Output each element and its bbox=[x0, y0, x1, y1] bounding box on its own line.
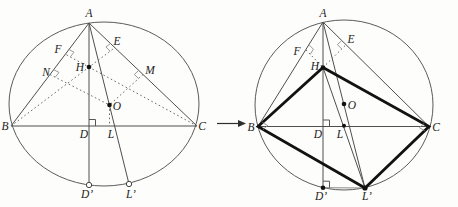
label-e-left: E bbox=[112, 35, 120, 47]
orthocenter-dot-h-left bbox=[87, 65, 92, 70]
left-figure: A B C D L D’ L’ H O E F N M bbox=[1, 7, 206, 200]
label-h-right: H bbox=[310, 60, 320, 72]
label-b-left: B bbox=[1, 120, 8, 132]
right-angle-mark-f-left bbox=[69, 49, 74, 57]
label-f-left: F bbox=[53, 43, 62, 55]
right-angle-mark-m-left bbox=[134, 70, 138, 78]
right-angle-mark-e-left bbox=[106, 43, 111, 51]
right-angle-mark-d-right bbox=[323, 120, 330, 127]
label-a-right: A bbox=[318, 7, 327, 19]
label-e-right: E bbox=[346, 33, 354, 45]
label-n-left: N bbox=[41, 66, 51, 78]
open-dot-lprime-left bbox=[126, 181, 131, 186]
orthocenter-dot-h-right bbox=[321, 65, 326, 70]
diagram-svg: A B C D L D’ L’ H O E F N M bbox=[0, 0, 458, 207]
label-c-left: C bbox=[198, 120, 206, 132]
open-dot-dprime-left bbox=[86, 182, 91, 187]
label-f-right: F bbox=[292, 45, 301, 57]
label-d-left: D bbox=[79, 128, 89, 140]
label-l-left: L bbox=[107, 128, 114, 140]
label-c-right: C bbox=[432, 121, 440, 133]
circumcenter-dot-o-right bbox=[342, 102, 347, 107]
right-angle-mark-f-right bbox=[309, 45, 313, 54]
label-m-left: M bbox=[144, 64, 156, 76]
dotted-he-right bbox=[323, 45, 346, 68]
side-ac-right bbox=[323, 22, 429, 127]
label-a-left: A bbox=[84, 7, 93, 19]
right-figure: A B C D L D’ L’ H O E F bbox=[247, 7, 440, 202]
right-angle-mark-n-left bbox=[54, 70, 59, 78]
label-dprime-left: D’ bbox=[80, 188, 93, 200]
transform-arrow bbox=[217, 120, 246, 127]
right-angle-mark-d-left bbox=[89, 120, 96, 127]
side-ab-right bbox=[258, 22, 323, 127]
label-d-right: D bbox=[313, 128, 323, 140]
label-dprime-right: D’ bbox=[314, 190, 327, 202]
label-l-right: L bbox=[336, 128, 343, 140]
label-h-left: H bbox=[75, 61, 85, 73]
label-lprime-left: L’ bbox=[125, 188, 136, 200]
circumcenter-dot-o-left bbox=[107, 103, 112, 108]
right-angle-mark-e-right bbox=[337, 41, 341, 49]
circumcircle-left bbox=[9, 22, 199, 186]
arrow-head-icon bbox=[238, 120, 246, 127]
label-o-right: O bbox=[348, 99, 357, 111]
label-o-left: O bbox=[113, 100, 122, 112]
label-b-right: B bbox=[247, 121, 254, 133]
geometry-diagram: A B C D L D’ L’ H O E F N M bbox=[0, 0, 458, 207]
dotted-altitude-be-left bbox=[11, 48, 115, 127]
dotted-altitude-cf-left bbox=[65, 54, 197, 126]
label-lprime-right: L’ bbox=[361, 190, 372, 202]
